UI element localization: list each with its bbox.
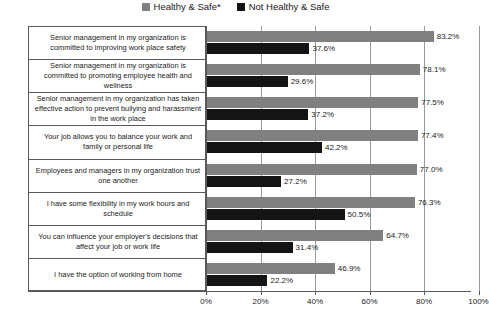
x-tick-mark xyxy=(315,291,316,295)
category-label: You can influence your employer's decisi… xyxy=(29,232,207,252)
category-row: Employees and managers in my organizatio… xyxy=(29,160,207,193)
bar-value-label: 22.2% xyxy=(270,275,293,286)
category-row: Senior management in my organization is … xyxy=(29,27,207,60)
bar-healthy-safe xyxy=(207,263,335,274)
category-label: Senior management in my organization has… xyxy=(29,94,207,124)
bar-not-healthy-safe xyxy=(207,209,345,220)
bar-not-healthy-safe xyxy=(207,43,309,54)
bar-value-label: 31.4% xyxy=(296,242,319,253)
legend-label: Healthy & Safe* xyxy=(154,2,221,12)
bar-value-label: 77.5% xyxy=(421,97,444,108)
legend-label: Not Healthy & Safe xyxy=(249,2,330,12)
bar-value-label: 76.3% xyxy=(418,197,441,208)
legend-swatch-not-healthy-safe xyxy=(237,3,245,11)
bar-value-label: 77.4% xyxy=(421,130,444,141)
bar-value-label: 42.2% xyxy=(325,142,348,153)
category-row: Senior management in my organization is … xyxy=(29,60,207,93)
x-tick-mark xyxy=(370,291,371,295)
plot-area: Senior management in my organization is … xyxy=(28,26,471,291)
category-row: You can influence your employer's decisi… xyxy=(29,226,207,259)
bar-not-healthy-safe xyxy=(207,242,293,253)
bar-not-healthy-safe xyxy=(207,76,288,87)
bar-not-healthy-safe xyxy=(207,275,267,286)
bar-not-healthy-safe xyxy=(207,109,308,120)
bar-value-label: 37.6% xyxy=(312,43,335,54)
bar-not-healthy-safe xyxy=(207,176,281,187)
legend-entry: Healthy & Safe* xyxy=(142,2,221,12)
x-tick-mark xyxy=(206,291,207,295)
bar-healthy-safe xyxy=(207,31,434,42)
bar-healthy-safe xyxy=(207,130,418,141)
bar-value-label: 27.2% xyxy=(284,176,307,187)
x-axis-line xyxy=(28,291,471,292)
x-tick-label: 20% xyxy=(252,297,268,306)
category-label: Senior management in my organization is … xyxy=(29,33,207,53)
category-label-column: Senior management in my organization is … xyxy=(28,26,206,291)
category-label: Employees and managers in my organizatio… xyxy=(29,166,207,186)
bar-healthy-safe xyxy=(207,64,420,75)
x-tick-mark xyxy=(424,291,425,295)
bar-value-label: 64.7% xyxy=(386,230,409,241)
category-label: I have some flexibility in my work hours… xyxy=(29,199,207,219)
bar-value-label: 78.1% xyxy=(423,64,446,75)
bar-healthy-safe xyxy=(207,164,417,175)
category-row: Senior management in my organization has… xyxy=(29,93,207,126)
x-tick-label: 40% xyxy=(307,297,323,306)
bar-healthy-safe xyxy=(207,197,415,208)
category-row: Your job allows you to balance your work… xyxy=(29,126,207,159)
category-row: I have the option of working from home xyxy=(29,259,207,292)
bar-not-healthy-safe xyxy=(207,142,322,153)
x-tick-label: 60% xyxy=(361,297,377,306)
category-row: I have some flexibility in my work hours… xyxy=(29,193,207,226)
legend-swatch-healthy-safe xyxy=(142,3,150,11)
x-tick-label: 0% xyxy=(200,297,212,306)
x-tick-mark xyxy=(479,291,480,295)
bar-value-label: 77.0% xyxy=(420,164,443,175)
x-tick-label: 100% xyxy=(468,297,488,306)
category-label: Senior management in my organization is … xyxy=(29,61,207,91)
chart-legend: Healthy & Safe*Not Healthy & Safe xyxy=(0,2,471,12)
bar-healthy-safe xyxy=(207,97,418,108)
category-label: Your job allows you to balance your work… xyxy=(29,132,207,152)
bar-healthy-safe xyxy=(207,230,383,241)
bars-region: 83.2%37.6%78.1%29.6%77.5%37.2%77.4%42.2%… xyxy=(206,26,471,291)
category-label: I have the option of working from home xyxy=(49,270,187,280)
bar-value-label: 29.6% xyxy=(291,76,314,87)
legend-entry: Not Healthy & Safe xyxy=(237,2,330,12)
bar-value-label: 37.2% xyxy=(311,109,334,120)
bar-value-label: 46.9% xyxy=(338,263,361,274)
x-tick-label: 80% xyxy=(416,297,432,306)
gridline-100pct xyxy=(479,26,480,291)
bar-value-label: 50.5% xyxy=(348,209,371,220)
x-tick-mark xyxy=(261,291,262,295)
bar-value-label: 83.2% xyxy=(437,31,460,42)
